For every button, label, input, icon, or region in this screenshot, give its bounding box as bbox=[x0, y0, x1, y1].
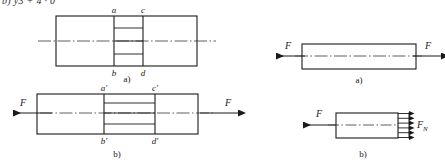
left-figure-b-label-d-prime: d' bbox=[152, 136, 160, 146]
left-figure-b-bar-outline bbox=[37, 94, 198, 134]
mechanics-diagram-svg: a c b d a) F F bbox=[0, 0, 445, 166]
left-figure-b-group: F F a' c' b' d' b) bbox=[13, 83, 238, 159]
left-figure-b-force-label-right: F bbox=[224, 97, 232, 108]
left-figure-b-caption: b) bbox=[113, 149, 121, 159]
internal-force-subscript: N bbox=[422, 125, 428, 133]
right-figure-a-bar-outline bbox=[302, 44, 416, 69]
left-figure-a-label-a: a bbox=[112, 5, 117, 15]
right-figure-b-force-label-left: F bbox=[315, 108, 323, 119]
left-figure-b-label-a-prime: a' bbox=[101, 83, 109, 93]
left-figure-a-caption: a) bbox=[124, 74, 131, 84]
left-figure-b-label-c-prime: c' bbox=[152, 83, 159, 93]
right-figure-b-internal-force-label: FN bbox=[416, 119, 428, 133]
left-figure-b-label-b-prime: b' bbox=[101, 136, 109, 146]
right-figure-b-group: F FN b) bbox=[303, 108, 428, 159]
clipped-formula-fragment: b) y3 + 4 · 0 bbox=[2, 0, 55, 6]
right-figure-a-force-label-right: F bbox=[424, 40, 432, 51]
left-figure-b-force-label-left: F bbox=[19, 97, 27, 108]
left-figure-a-label-c: c bbox=[141, 5, 145, 15]
right-figure-a-group: F F a) bbox=[276, 40, 441, 85]
left-figure-a-label-d: d bbox=[141, 68, 146, 78]
left-figure-a-group: a c b d a) bbox=[38, 5, 216, 84]
right-figure-a-force-label-left: F bbox=[284, 40, 292, 51]
left-figure-a-label-b: b bbox=[112, 68, 117, 78]
right-figure-a-caption: a) bbox=[356, 75, 363, 85]
right-figure-b-caption: b) bbox=[359, 149, 367, 159]
right-figure-b-bar-outline bbox=[336, 113, 398, 138]
technical-figure-canvas: b) y3 + 4 · 0 bbox=[0, 0, 445, 166]
right-figure-b-distributed-force-arrows bbox=[398, 113, 409, 139]
